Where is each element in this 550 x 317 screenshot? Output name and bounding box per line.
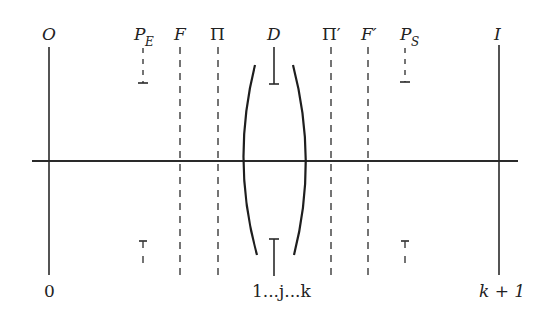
rear-principal-label: Π′ [322, 24, 341, 44]
front-principal-label: Π [210, 24, 225, 44]
lens-system [243, 65, 305, 255]
lens-surfaces-label: 1...j...k [252, 281, 312, 301]
rear-focal-label: F′ [360, 24, 377, 44]
lens-front-surface [243, 65, 257, 255]
object-plane-label: O [42, 24, 56, 44]
entrance-pupil-subscript: E [144, 35, 154, 49]
entrance-pupil: P E [133, 24, 154, 270]
object-plane-index: 0 [44, 281, 55, 301]
lens-rear-surface [293, 65, 306, 255]
image-plane-index: k + 1 [479, 281, 525, 301]
front-focal-label: F [173, 24, 187, 44]
exit-pupil-subscript: S [411, 35, 419, 49]
optical-system-diagram: O 0 P E F Π D 1...j...k Π′ F′ P S [0, 0, 550, 317]
aperture-stop-label: D [266, 24, 281, 44]
image-plane-label: I [493, 24, 501, 44]
exit-pupil: P S [399, 24, 419, 270]
aperture-stop: D [266, 24, 281, 276]
